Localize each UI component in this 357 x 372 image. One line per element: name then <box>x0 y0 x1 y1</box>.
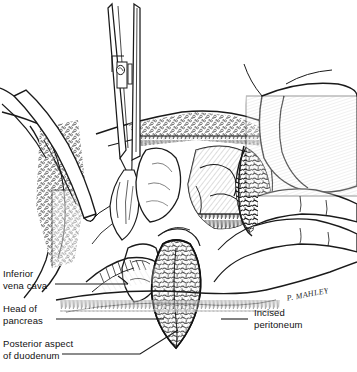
label-posterior-aspect-of-duodenum: Posterior aspect of duodenum <box>3 338 73 361</box>
label-inferior-vena-cava: Inferior vena cava <box>3 268 47 291</box>
label-incised-peritoneum: Incised peritoneum <box>254 307 303 330</box>
label-head-of-pancreas: Head of pancreas <box>3 303 43 326</box>
illustration-artwork <box>0 0 357 372</box>
surgical-illustration-figure: Inferior vena cava Head of pancreas Post… <box>0 0 357 372</box>
